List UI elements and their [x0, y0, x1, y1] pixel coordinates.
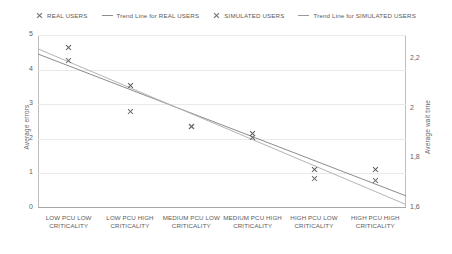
y-axis-left-tick-label: 0 — [9, 203, 33, 210]
x-marker-icon — [65, 44, 72, 51]
x-marker-icon — [36, 12, 43, 19]
x-marker-icon — [188, 123, 195, 130]
chart-container: REAL USERS Trend Line for REAL USERS SIM… — [0, 0, 452, 254]
chart-legend: REAL USERS Trend Line for REAL USERS SIM… — [0, 8, 452, 22]
trend-line — [38, 54, 406, 196]
x-axis-category-label: LOW PCU HIGH CRITICALITY — [99, 214, 160, 252]
legend-item-real-users[interactable]: REAL USERS — [36, 12, 87, 19]
y-axis-right-title: Average wait time — [423, 100, 430, 154]
trend-lines — [38, 35, 406, 208]
legend-label: Trend Line for REAL USERS — [117, 12, 200, 19]
x-axis-category-label: HIGH PCU HIGH CRITICALITY — [345, 214, 406, 252]
trend-line — [38, 49, 406, 205]
x-marker-icon — [127, 108, 134, 115]
y-axis-right-tick-label: 1,6 — [410, 203, 436, 210]
y-axis-left-tick-label: 5 — [9, 30, 33, 37]
y-axis-left-tick-label: 1 — [9, 168, 33, 175]
x-marker-icon — [65, 57, 72, 64]
legend-label: REAL USERS — [47, 12, 87, 19]
x-marker-icon — [372, 177, 379, 184]
x-axis-labels: LOW PCU LOW CRITICALITYLOW PCU HIGH CRIT… — [38, 214, 406, 252]
x-axis-category-label: LOW PCU LOW CRITICALITY — [38, 214, 99, 252]
x-marker-icon — [311, 166, 318, 173]
x-marker-icon — [213, 12, 220, 19]
legend-label: SIMULATED USERS — [224, 12, 284, 19]
y-axis-left-title: Average errors — [23, 105, 30, 150]
x-axis-category-label: HIGH PCU LOW CRITICALITY — [283, 214, 344, 252]
y-axis-right-tick-label: 2,2 — [410, 54, 436, 61]
x-marker-icon — [311, 175, 318, 182]
line-swatch-icon — [102, 15, 113, 16]
legend-item-trend-real-users[interactable]: Trend Line for REAL USERS — [102, 12, 200, 19]
x-marker-icon — [127, 82, 134, 89]
y-axis-right-tick-label: 1,8 — [410, 153, 436, 160]
line-swatch-icon — [298, 15, 309, 16]
x-marker-icon — [249, 134, 256, 141]
x-axis-category-label: MEDIUM PCU HIGH CRITICALITY — [222, 214, 283, 252]
y-axis-left-tick-label: 4 — [9, 65, 33, 72]
plot-area: 543210 2,221,81,6 — [38, 35, 406, 208]
legend-label: Trend Line for SIMULATED USERS — [313, 12, 416, 19]
legend-item-simulated-users[interactable]: SIMULATED USERS — [213, 12, 284, 19]
x-marker-icon — [372, 166, 379, 173]
legend-item-trend-simulated-users[interactable]: Trend Line for SIMULATED USERS — [298, 12, 416, 19]
x-axis-category-label: MEDIUM PCU LOW CRITICALITY — [161, 214, 222, 252]
